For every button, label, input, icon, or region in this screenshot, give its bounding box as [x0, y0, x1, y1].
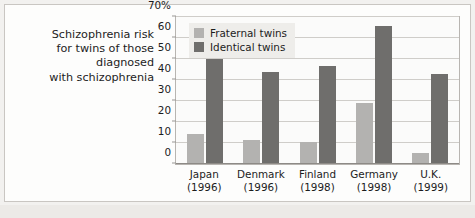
- page-bottom-band: [0, 205, 475, 218]
- x-axis-label: Denmark(1996): [233, 168, 290, 194]
- legend-item-identical: Identical twins: [194, 40, 287, 54]
- x-axis-label-year: (1998): [346, 181, 403, 194]
- legend-label-identical: Identical twins: [210, 41, 285, 53]
- x-axis-label-year: (1996): [233, 181, 290, 194]
- x-axis-label-country: Japan: [176, 168, 233, 181]
- x-axis-label-country: Denmark: [233, 168, 290, 181]
- x-axis-label: Finland(1998): [289, 168, 346, 194]
- bar-japan-identical[interactable]: [206, 59, 223, 163]
- legend-label-fraternal: Fraternal twins: [210, 27, 287, 39]
- y-tick-mark: [172, 37, 176, 38]
- bar-denmark-fraternal[interactable]: [243, 140, 260, 163]
- figure: Schizophrenia risk for twins of those di…: [0, 0, 475, 218]
- legend: Fraternal twins Identical twins: [189, 23, 295, 58]
- y-tick-label: 30: [158, 83, 171, 95]
- bar-japan-fraternal[interactable]: [187, 134, 204, 163]
- x-axis-label-year: (1996): [176, 181, 233, 194]
- legend-swatch-fraternal-icon: [194, 28, 204, 38]
- bar-denmark-identical[interactable]: [262, 72, 279, 163]
- y-tick-mark: [172, 16, 176, 17]
- bar-finland-fraternal[interactable]: [300, 142, 317, 163]
- chart-title-line-4: with schizophrenia: [16, 71, 154, 85]
- x-axis-label: U.K.(1999): [402, 168, 459, 194]
- chart-title-line-3: diagnosed: [16, 56, 154, 70]
- x-axis-label-year: (1998): [289, 181, 346, 194]
- x-axis-labels: Japan(1996)Denmark(1996)Finland(1998)Ger…: [176, 168, 459, 194]
- bar-group: [346, 18, 402, 163]
- x-axis-label-year: (1999): [402, 181, 459, 194]
- y-tick-label: 70%: [148, 0, 171, 11]
- y-tick-label: 20: [158, 104, 171, 116]
- chart-title-line-2: for twins of those: [16, 42, 154, 56]
- x-axis-line: [176, 163, 459, 164]
- bar-chart: 010203040506070% Fraternal twins Identic…: [175, 16, 460, 165]
- bar-uk-identical[interactable]: [431, 74, 448, 163]
- chart-title: Schizophrenia risk for twins of those di…: [16, 28, 154, 85]
- y-tick-label: 0: [164, 146, 171, 158]
- y-tick-mark: [172, 58, 176, 59]
- x-axis-label: Japan(1996): [176, 168, 233, 194]
- y-tick-mark: [172, 121, 176, 122]
- bar-germany-identical[interactable]: [375, 26, 392, 163]
- chart-title-line-1: Schizophrenia risk: [16, 28, 154, 42]
- bar-group: [289, 18, 345, 163]
- y-tick-mark: [172, 142, 176, 143]
- x-axis-label: Germany(1998): [346, 168, 403, 194]
- x-axis-label-country: U.K.: [402, 168, 459, 181]
- y-tick-label: 40: [158, 62, 171, 74]
- y-tick-mark: [172, 79, 176, 80]
- y-tick-label: 50: [158, 41, 171, 53]
- bar-group: [402, 18, 458, 163]
- y-tick-mark: [172, 100, 176, 101]
- bar-uk-fraternal[interactable]: [412, 153, 429, 163]
- gridline: [176, 16, 459, 17]
- bar-finland-identical[interactable]: [319, 66, 336, 163]
- legend-swatch-identical-icon: [194, 42, 204, 52]
- y-tick-label: 10: [158, 125, 171, 137]
- bar-germany-fraternal[interactable]: [356, 103, 373, 163]
- x-axis-label-country: Germany: [346, 168, 403, 181]
- x-axis-label-country: Finland: [289, 168, 346, 181]
- y-tick-label: 60: [158, 20, 171, 32]
- legend-item-fraternal: Fraternal twins: [194, 26, 287, 40]
